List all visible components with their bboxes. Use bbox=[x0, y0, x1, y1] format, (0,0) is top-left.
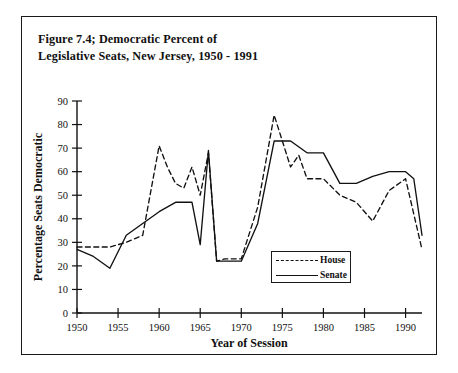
legend-label-house: House bbox=[320, 253, 345, 268]
svg-text:1960: 1960 bbox=[149, 322, 170, 333]
y-axis-title: Percentage Seats Democratic bbox=[31, 132, 45, 281]
svg-text:1985: 1985 bbox=[354, 322, 375, 333]
svg-text:70: 70 bbox=[58, 143, 69, 154]
svg-text:1980: 1980 bbox=[313, 322, 334, 333]
x-axis-title: Year of Session bbox=[210, 336, 287, 350]
svg-text:1975: 1975 bbox=[272, 322, 293, 333]
svg-text:50: 50 bbox=[58, 190, 69, 201]
svg-text:1970: 1970 bbox=[231, 322, 252, 333]
svg-text:1965: 1965 bbox=[190, 322, 211, 333]
figure-frame: Figure 7.4; Democratic Percent of Legisl… bbox=[21, 16, 437, 355]
svg-text:20: 20 bbox=[58, 261, 69, 272]
svg-text:1990: 1990 bbox=[395, 322, 416, 333]
svg-text:80: 80 bbox=[58, 119, 69, 130]
plot-area: 0102030405060708090 19501955196019651970… bbox=[22, 17, 438, 356]
chart-legend: House Senate bbox=[271, 251, 351, 283]
legend-swatch-dashed-line bbox=[276, 260, 318, 261]
x-axis-tick-labels: 195019551960196519701975198019851990 bbox=[67, 322, 417, 333]
svg-text:90: 90 bbox=[58, 96, 69, 107]
y-axis-tick-labels: 0102030405060708090 bbox=[58, 96, 69, 319]
legend-label-senate: Senate bbox=[320, 268, 347, 283]
svg-text:10: 10 bbox=[58, 284, 69, 295]
legend-entry-house: House bbox=[272, 253, 352, 268]
line-chart-svg: 0102030405060708090 19501955196019651970… bbox=[22, 17, 438, 356]
legend-entry-senate: Senate bbox=[272, 268, 352, 283]
series-line-house bbox=[77, 115, 422, 261]
series-line-senate bbox=[77, 141, 422, 268]
svg-text:30: 30 bbox=[58, 237, 69, 248]
svg-text:1955: 1955 bbox=[108, 322, 129, 333]
legend-swatch-solid-line bbox=[276, 275, 318, 276]
svg-text:40: 40 bbox=[58, 213, 69, 224]
svg-text:0: 0 bbox=[63, 308, 68, 319]
svg-text:1950: 1950 bbox=[67, 322, 88, 333]
svg-text:60: 60 bbox=[58, 166, 69, 177]
